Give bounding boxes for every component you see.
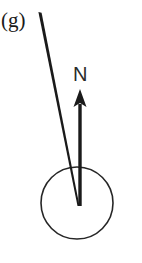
canvas-background	[0, 0, 142, 263]
panel-label: (g)	[1, 8, 26, 32]
normal-vector-shaft	[78, 104, 81, 206]
normal-vector-label: N	[73, 63, 87, 85]
figure-diagram-canvas	[0, 0, 142, 263]
figure-panel: (g) N	[0, 0, 142, 263]
